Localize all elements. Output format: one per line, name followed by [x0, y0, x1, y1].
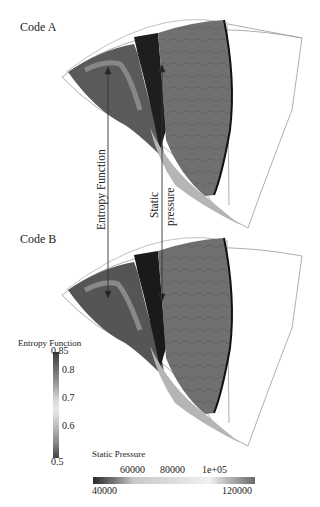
panel-code-b: [62, 237, 302, 446]
entropy-tick: 0.6: [62, 420, 75, 431]
contour-plots: [0, 0, 320, 507]
entropy-tick: 0.5: [51, 456, 64, 467]
pressure-colorbar: [93, 477, 255, 484]
pressure-arrow-label-line2: pressure: [164, 188, 176, 226]
pressure-tick: 40000: [92, 485, 117, 496]
entropy-tick: 0.85: [51, 345, 69, 356]
entropy-arrow-label: Entropy Function: [95, 149, 107, 230]
pressure-tick: 80000: [160, 464, 185, 475]
entropy-tick: 0.8: [62, 364, 75, 375]
pressure-tick: 120000: [222, 485, 252, 496]
pressure-arrow-label-line1: Static: [148, 192, 160, 218]
pressure-colorbar-title: Static Pressure: [92, 449, 145, 459]
entropy-colorbar-title: Entropy Function: [18, 338, 81, 348]
pressure-tick: 1e+05: [202, 464, 227, 475]
pressure-tick: 60000: [120, 464, 145, 475]
entropy-colorbar: [53, 352, 59, 458]
entropy-tick: 0.7: [62, 392, 75, 403]
